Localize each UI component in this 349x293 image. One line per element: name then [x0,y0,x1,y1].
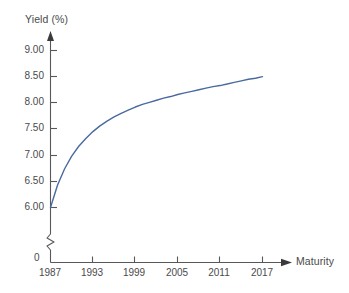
y-axis-ticks [51,51,58,208]
x-axis-ticks [93,257,263,263]
y-axis-break-icon [47,234,54,250]
x-axis-arrow-icon [281,259,292,266]
chart-canvas [0,0,349,293]
yield-curve-line [51,77,263,208]
yield-curve-chart: Yield (%) Maturity 0 9.00 8.50 8.00 7.50… [0,0,349,293]
y-axis-arrow-icon [47,31,54,41]
